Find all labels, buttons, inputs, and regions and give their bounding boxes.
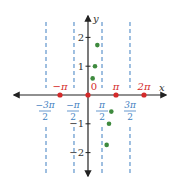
data-point: [104, 143, 109, 148]
zero-point: [141, 92, 146, 97]
zero-point: [57, 92, 62, 97]
asymptote-label-denominator: 2: [70, 112, 76, 122]
zero-point: [85, 92, 90, 97]
asymptote-label-denominator: 2: [42, 112, 48, 122]
zero-label: 0: [91, 81, 97, 92]
data-point: [93, 64, 98, 69]
data-point: [107, 122, 112, 127]
asymptote-label-numerator: 3π: [124, 100, 137, 110]
y-tick-label: 2: [78, 32, 84, 43]
asymptote-label-numerator: −π: [66, 100, 81, 110]
zero-label: π: [112, 81, 120, 92]
function-graph: x y 21−1−2 −3π2−π2π23π2 −π0π2π: [0, 0, 175, 184]
x-axis-label: x: [159, 82, 165, 93]
asymptote-label-numerator: π: [98, 100, 106, 110]
asymptote-label-numerator: −3π: [35, 100, 55, 110]
zero-label: 2π: [137, 81, 151, 92]
y-tick-label: 1: [78, 61, 84, 72]
zero-point: [113, 92, 118, 97]
asymptote-label-denominator: 2: [127, 112, 133, 122]
data-point: [109, 109, 114, 114]
zero-label: −π: [53, 81, 68, 92]
x-labels: −3π2−π2π23π2: [35, 100, 136, 122]
data-point: [90, 76, 95, 81]
asymptote-label-denominator: 2: [99, 112, 105, 122]
data-point: [95, 43, 100, 48]
y-axis-label: y: [92, 13, 99, 24]
y-tick-label: −2: [69, 147, 84, 158]
